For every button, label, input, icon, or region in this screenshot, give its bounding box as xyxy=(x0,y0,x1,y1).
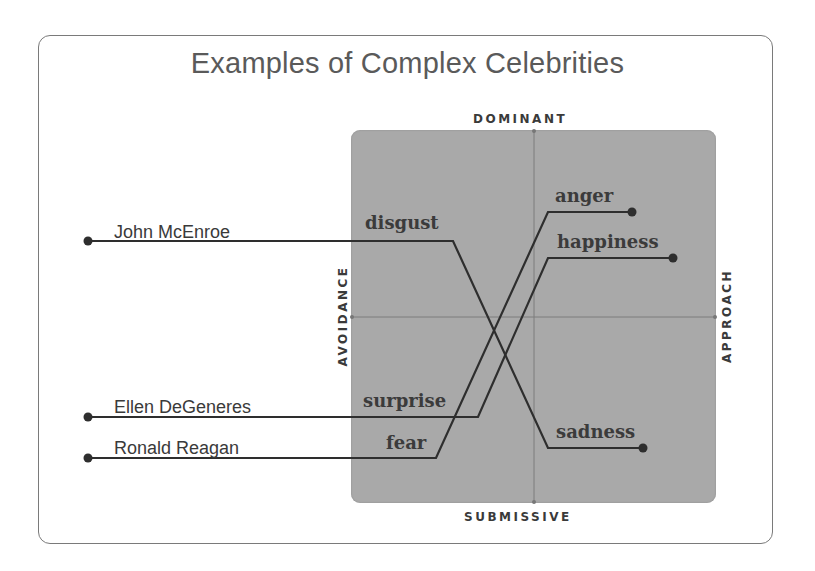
dot-happiness xyxy=(669,254,678,263)
midline-tick xyxy=(532,129,536,133)
dot-anger xyxy=(628,208,637,217)
celebrity-label-ronald-reagan: Ronald Reagan xyxy=(114,439,239,457)
emotion-label-happiness: happiness xyxy=(557,233,659,251)
emotion-label-anger: anger xyxy=(555,187,613,205)
celebrity-label-john-mcenroe: John McEnroe xyxy=(114,223,230,241)
midline-tick xyxy=(713,315,717,319)
emotion-label-fear: fear xyxy=(386,434,426,452)
dot-ronald-reagan-start xyxy=(84,454,93,463)
connector-ronald-reagan xyxy=(88,212,632,458)
dot-ellen-degeneres-start xyxy=(84,413,93,422)
midline-tick xyxy=(350,315,354,319)
dot-john-mcenroe-start xyxy=(84,237,93,246)
dot-sadness xyxy=(639,444,648,453)
emotion-label-surprise: surprise xyxy=(363,392,446,410)
connector-lines xyxy=(0,0,815,571)
emotion-label-sadness: sadness xyxy=(556,423,635,441)
celebrity-label-ellen-degeneres: Ellen DeGeneres xyxy=(114,398,251,416)
midline-tick xyxy=(532,500,536,504)
emotion-label-disgust: disgust xyxy=(365,214,439,232)
